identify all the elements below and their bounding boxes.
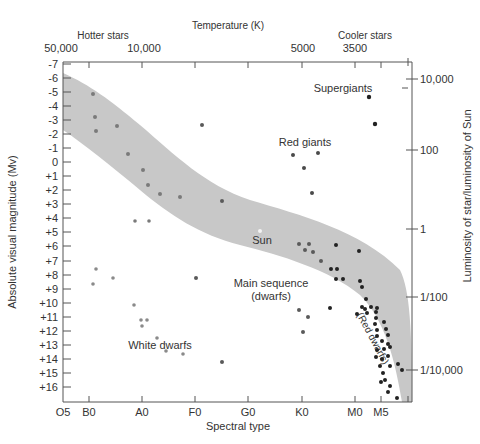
white-dwarfs-label: White dwarfs [128, 339, 192, 351]
svg-text:F0: F0 [189, 406, 202, 418]
dwarfs-label: (dwarfs) [251, 290, 291, 302]
top-tick-label: 3500 [343, 42, 367, 54]
cooler-stars-note: Cooler stars [338, 30, 392, 41]
svg-text:+8: +8 [45, 269, 58, 281]
top-tick-label: 50,000 [44, 42, 78, 54]
red-giants-label: Red giants [279, 136, 332, 148]
svg-text:G0: G0 [241, 406, 256, 418]
svg-text:+1: +1 [45, 170, 58, 182]
svg-text:A0: A0 [135, 406, 148, 418]
svg-text:+4: +4 [45, 212, 58, 224]
svg-text:+12: +12 [39, 325, 58, 337]
svg-text:+9: +9 [45, 283, 58, 295]
svg-text:M0: M0 [347, 406, 362, 418]
svg-text:1/10,000: 1/10,000 [420, 364, 463, 376]
supergiant-stars [367, 95, 377, 126]
svg-text:+3: +3 [45, 198, 58, 210]
y-axis-title: Absolute visual magnitude (Mv) [6, 155, 18, 308]
svg-text:+15: +15 [39, 367, 58, 379]
svg-text:K0: K0 [295, 406, 308, 418]
x-tick-labels: O5 B0 A0 F0 G0 K0 M0 M5 [56, 406, 389, 418]
main-sequence-band [63, 73, 412, 402]
svg-text:+5: +5 [45, 226, 58, 238]
hr-diagram: Temperature (K) Hotter stars Cooler star… [0, 0, 480, 444]
svg-text:-3: -3 [48, 114, 58, 126]
left-tick-labels: -7 -6 -5 -4 -3 -2 -1 0 +1 +2 +3 +4 +5 +6… [39, 58, 58, 393]
svg-text:+10: +10 [39, 297, 58, 309]
sun-label: Sun [252, 234, 272, 246]
svg-text:-2: -2 [48, 128, 58, 140]
svg-text:10,000: 10,000 [420, 73, 454, 85]
right-tick-labels: 10,000 100 1 1/100 1/10,000 [420, 73, 463, 376]
svg-text:100: 100 [420, 144, 438, 156]
red-giant-stars [291, 151, 320, 195]
svg-text:+13: +13 [39, 339, 58, 351]
sun-marker [258, 229, 262, 233]
svg-text:0: 0 [52, 156, 58, 168]
top-tick-label: 10,000 [127, 42, 161, 54]
svg-text:M5: M5 [373, 406, 388, 418]
x-axis-title: Spectral type [206, 420, 270, 432]
bottom-ticks [89, 396, 408, 402]
svg-text:+16: +16 [39, 381, 58, 393]
svg-text:-5: -5 [48, 86, 58, 98]
hotter-stars-note: Hotter stars [77, 30, 129, 41]
svg-text:-4: -4 [48, 100, 58, 112]
svg-text:O5: O5 [56, 406, 71, 418]
svg-text:+11: +11 [40, 311, 58, 323]
svg-text:-7: -7 [48, 58, 58, 70]
main-sequence-label: Main sequence [234, 277, 309, 289]
right-axis-title: Luminosity of star/luminosity of Sun [461, 109, 473, 282]
svg-text:+7: +7 [45, 255, 58, 267]
svg-text:+6: +6 [45, 240, 58, 252]
top-tick-label: 5000 [291, 42, 315, 54]
svg-text:-6: -6 [48, 72, 58, 84]
svg-text:1: 1 [420, 223, 426, 235]
svg-text:1/100: 1/100 [420, 291, 448, 303]
svg-text:-1: -1 [48, 142, 58, 154]
svg-text:+14: +14 [39, 353, 58, 365]
svg-text:+2: +2 [45, 184, 58, 196]
top-ticks [89, 58, 408, 68]
svg-text:B0: B0 [82, 406, 95, 418]
supergiants-label: Supergiants [314, 82, 373, 94]
temperature-title: Temperature (K) [192, 20, 264, 31]
